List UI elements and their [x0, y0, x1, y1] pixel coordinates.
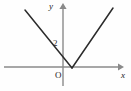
coordinate-plane-svg: [0, 0, 131, 91]
y-axis-label: y: [49, 2, 53, 11]
y-axis-arrowhead-icon: [59, 3, 66, 9]
x-axis-label: x: [121, 71, 125, 80]
y-tick-label-2: 2: [53, 39, 58, 48]
origin-label: O: [55, 71, 62, 80]
math-graph-figure: y x O 2: [0, 0, 131, 91]
curve-left-arm: [25, 10, 72, 68]
curve-right-arm: [72, 8, 113, 68]
